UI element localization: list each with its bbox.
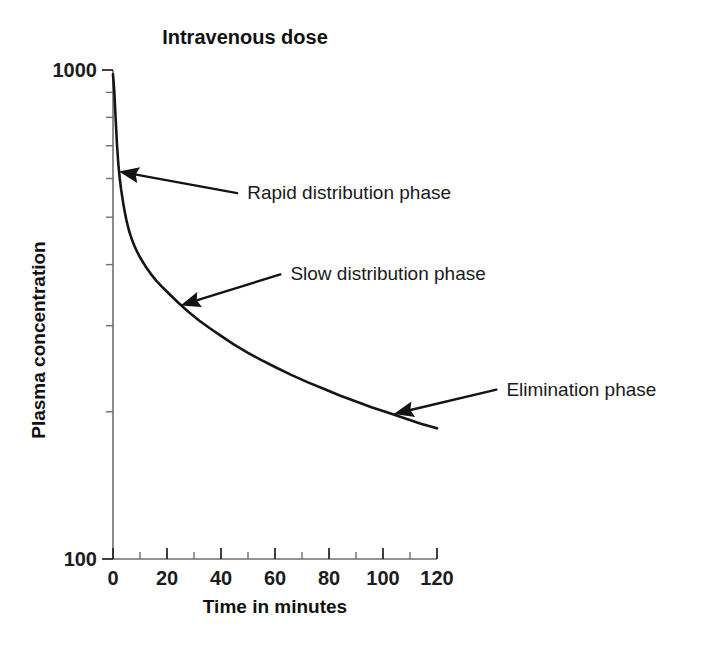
x-tick-label: 80 bbox=[318, 567, 340, 589]
y-axis-tick-labels: 1001000 bbox=[53, 59, 98, 570]
x-tick-label: 0 bbox=[107, 567, 118, 589]
y-axis-title: Plasma concentration bbox=[28, 241, 49, 438]
annotation-label-elimination-phase: Elimination phase bbox=[506, 379, 656, 400]
data-curve-group bbox=[113, 74, 437, 428]
y-tick-label: 1000 bbox=[53, 59, 98, 81]
annotation-label-rapid-distribution-phase: Rapid distribution phase bbox=[247, 182, 451, 203]
x-axis-ticks bbox=[113, 548, 437, 559]
x-tick-label: 120 bbox=[420, 567, 453, 589]
annotation-arrow-line bbox=[196, 274, 281, 300]
chart-figure: 1001000 020406080100120 Rapid distributi… bbox=[0, 0, 711, 648]
plot-canvas: 1001000 020406080100120 Rapid distributi… bbox=[0, 0, 711, 648]
chart-title: Intravenous dose bbox=[162, 26, 328, 48]
x-axis-title: Time in minutes bbox=[203, 596, 347, 617]
annotation-arrow-line bbox=[135, 174, 238, 193]
x-tick-label: 40 bbox=[210, 567, 232, 589]
axes-group bbox=[113, 70, 437, 559]
plasma-concentration-curve bbox=[113, 74, 437, 428]
y-axis-ticks bbox=[102, 70, 113, 559]
x-tick-label: 60 bbox=[264, 567, 286, 589]
annotation-label-slow-distribution-phase: Slow distribution phase bbox=[290, 263, 485, 284]
y-tick-label: 100 bbox=[64, 548, 97, 570]
x-tick-label: 100 bbox=[366, 567, 399, 589]
x-axis-tick-labels: 020406080100120 bbox=[107, 567, 453, 589]
annotations-group: Rapid distribution phaseSlow distributio… bbox=[119, 167, 656, 417]
annotation-arrow-line bbox=[409, 390, 496, 411]
x-tick-label: 20 bbox=[156, 567, 178, 589]
